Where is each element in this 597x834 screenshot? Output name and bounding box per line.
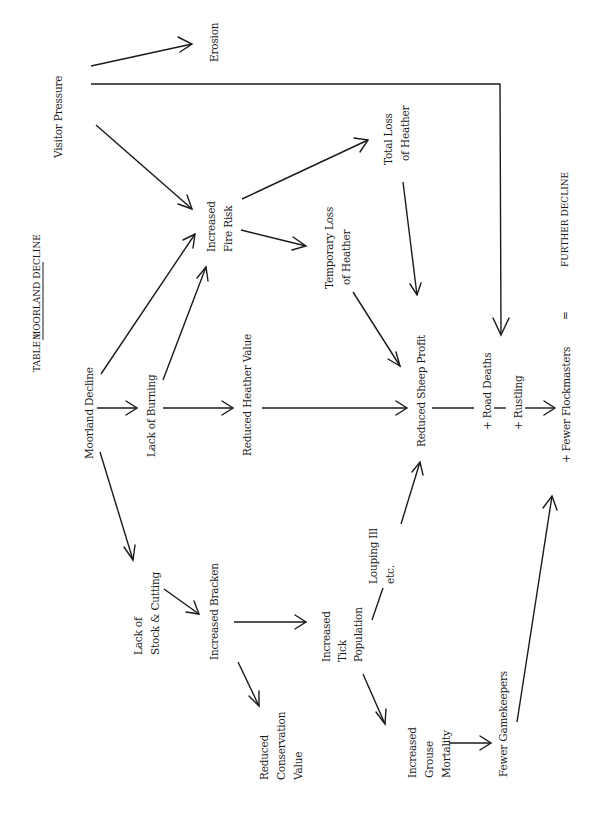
node-road-deaths: + Road Deaths [481,353,493,430]
node-lack-of-stock-cutting: Lack of Stock & Cutting [132,571,161,655]
arrow-visitor-road-deaths [91,84,509,335]
svg-text:Total Loss: Total Loss [382,113,394,165]
node-fewer-gamekeepers: Fewer Gamekeepers [497,671,509,777]
node-erosion: Erosion [208,22,220,62]
node-further-decline: FURTHER DECLINE [560,172,570,267]
node-increased-bracken: Increased Bracken [208,563,220,660]
svg-text:Moorland Decline: Moorland Decline [83,367,95,459]
arrow-visitor-fire-risk [96,125,192,209]
moorland-decline-diagram: TABLE 1 MOORLAND DECLINE Visitor Pressur… [0,0,597,834]
svg-text:+ Road Deaths: + Road Deaths [481,353,493,430]
arrow-fire-temp-loss [241,230,306,250]
svg-text:of Heather: of Heather [340,228,352,285]
svg-text:Reduced: Reduced [258,735,270,780]
svg-text:Lack of: Lack of [132,616,144,655]
svg-text:Value: Value [292,752,304,781]
svg-text:=: = [559,311,571,320]
node-total-loss-heather: Total Loss of Heather [382,104,411,165]
arrow-moorland-burning [97,401,137,415]
node-moorland-decline: Moorland Decline [83,367,95,459]
svg-text:of Heather: of Heather [399,104,411,161]
svg-text:Lack of Burning: Lack of Burning [145,374,157,457]
node-reduced-heather-value: Reduced Heather Value [241,334,253,456]
node-reduced-conservation-value: Reduced Conservation Value [258,711,304,781]
arrow-tick-grouse [363,674,386,724]
arrow-temp-loss-sheep [353,292,400,366]
svg-text:+ Rustling: + Rustling [512,375,524,430]
arrow-bracken-conservation [238,662,259,706]
svg-text:Louping Ill: Louping Ill [367,528,379,584]
svg-text:Population: Population [352,607,364,662]
arrow-tick-louping [372,588,383,620]
arrow-burning-heather-value [163,401,233,415]
svg-text:Reduced Sheep Profit: Reduced Sheep Profit [415,334,427,447]
node-lack-of-burning: Lack of Burning [145,374,157,457]
svg-text:Conservation: Conservation [275,711,287,780]
svg-text:Fire Risk: Fire Risk [222,205,234,252]
svg-text:Stock & Cutting: Stock & Cutting [149,571,161,655]
svg-text:Grouse: Grouse [423,741,435,778]
arrow-visitor-erosion [91,37,192,66]
svg-text:Reduced Heather Value: Reduced Heather Value [241,334,253,456]
svg-text:Visitor Pressure: Visitor Pressure [52,76,64,159]
arrow-stock-bracken [164,589,199,614]
arrow-louping-sheep [401,462,423,524]
arrow-burning-fire-risk [163,267,208,380]
diagram-title: TABLE 1 MOORLAND DECLINE [32,234,43,372]
arrow-moorland-stock [100,452,135,560]
svg-text:+ Fewer Flockmasters: + Fewer Flockmasters [560,347,572,463]
svg-text:etc.: etc. [384,565,396,584]
arrow-grouse-gamekeepers [449,736,491,750]
svg-text:Temporary Loss: Temporary Loss [323,207,335,289]
svg-text:FURTHER DECLINE: FURTHER DECLINE [560,172,570,267]
svg-text:Increased: Increased [320,611,332,662]
equals-sign: = [559,311,571,320]
arrow-sheep-flockmasters [432,401,555,415]
title-name: MOORLAND DECLINE [32,234,42,340]
node-temporary-loss-heather: Temporary Loss of Heather [323,207,352,289]
node-increased-fire-risk: Increased Fire Risk [205,201,234,252]
arrow-total-loss-sheep [403,182,421,295]
arrow-moorland-fire-risk [101,234,195,374]
svg-text:Increased: Increased [205,201,217,252]
svg-text:Erosion: Erosion [208,22,220,62]
arrow-bracken-tick [234,615,306,629]
svg-text:Tick: Tick [336,639,348,662]
node-reduced-sheep-profit: Reduced Sheep Profit [415,334,427,447]
node-fewer-flockmasters: + Fewer Flockmasters [560,347,572,463]
node-visitor-pressure: Visitor Pressure [52,76,64,159]
arrow-fire-total-loss [242,138,368,199]
arrow-heather-value-sheep [262,401,407,415]
svg-text:Fewer Gamekeepers: Fewer Gamekeepers [497,671,509,777]
svg-text:Increased: Increased [406,727,418,778]
node-increased-grouse-mortality: Increased Grouse Mortality [406,727,452,778]
arrow-gamekeepers-flockmasters [517,496,557,722]
node-rustling: + Rustling [512,375,524,430]
svg-text:Mortality: Mortality [440,730,452,778]
node-increased-tick-population: Increased Tick Population [320,607,364,662]
svg-text:Increased Bracken: Increased Bracken [208,563,220,660]
node-louping-ill: Louping Ill etc. [367,528,396,584]
